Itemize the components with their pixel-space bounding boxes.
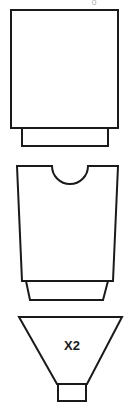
notched-vessel-base <box>26 281 108 300</box>
diagram-canvas: o X2 <box>0 0 140 411</box>
part-funnel-hopper: X2 <box>19 317 122 401</box>
vessel-assembly-drawing: o X2 <box>0 0 140 411</box>
notched-vessel-body <box>17 166 118 281</box>
funnel-neck <box>58 384 86 401</box>
funnel-label: X2 <box>64 338 80 353</box>
part-upper-square-vessel <box>11 10 118 146</box>
upper-vessel-body <box>11 10 118 128</box>
upper-vessel-base <box>22 128 108 146</box>
top-cropped-text: o <box>91 0 96 7</box>
part-notched-vessel <box>17 166 118 300</box>
